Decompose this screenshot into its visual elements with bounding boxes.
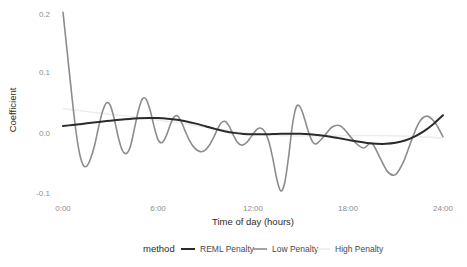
legend-item-label: Low Penalty bbox=[272, 244, 319, 254]
x-tick-label: 12:00 bbox=[243, 204, 264, 213]
y-axis-title: Coefficient bbox=[7, 87, 18, 132]
x-tick-label: 0:00 bbox=[55, 204, 71, 213]
y-tick-label: 0.2 bbox=[39, 10, 51, 19]
y-tick-label: -0.1 bbox=[36, 189, 50, 198]
legend-title: method bbox=[143, 243, 175, 254]
chart-container: 0.2 0.1 0.0 -0.1 0:00 6:00 12:00 18:00 2… bbox=[0, 0, 467, 267]
legend-item-label: REML Penalty bbox=[200, 244, 255, 254]
y-tick-label: 0.1 bbox=[39, 68, 51, 77]
legend-item-label: High Penalty bbox=[335, 244, 384, 254]
x-tick-label: 6:00 bbox=[150, 204, 166, 213]
y-tick-label: 0.0 bbox=[39, 129, 51, 138]
line-chart: 0.2 0.1 0.0 -0.1 0:00 6:00 12:00 18:00 2… bbox=[0, 0, 467, 267]
x-tick-label: 24:00 bbox=[433, 204, 454, 213]
x-tick-label: 18:00 bbox=[338, 204, 359, 213]
x-axis-title: Time of day (hours) bbox=[212, 216, 294, 227]
